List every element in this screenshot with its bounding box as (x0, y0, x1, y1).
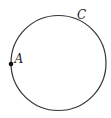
point-a-dot (9, 62, 14, 67)
circle (11, 16, 106, 111)
circle-diagram: A C (0, 0, 111, 118)
point-c-label: C (77, 8, 86, 22)
point-a-label: A (14, 52, 24, 66)
